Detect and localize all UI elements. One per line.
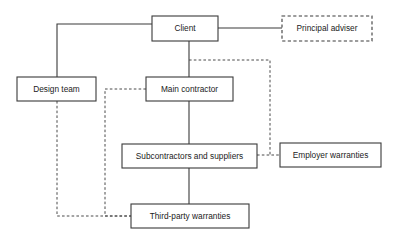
diagram-root: ClientPrincipal adviserDesign teamMain c… — [0, 0, 399, 241]
node-design-team[interactable]: Design team — [17, 77, 96, 101]
node-main-contractor[interactable]: Main contractor — [146, 77, 233, 101]
node-client[interactable]: Client — [152, 16, 218, 41]
diagram-canvas: ClientPrincipal adviserDesign teamMain c… — [0, 0, 399, 241]
node-principal-adviser[interactable]: Principal adviser — [282, 16, 372, 41]
connector-client-to-design-team — [57, 24, 152, 77]
node-label-third-party-warranties: Third-party warranties — [150, 211, 231, 221]
connector-client-to-employer-warranties — [189, 60, 270, 155]
node-subcontractors-and-suppliers[interactable]: Subcontractors and suppliers — [122, 144, 257, 168]
connector-design-team-to-third-party-warranties — [57, 101, 131, 216]
node-label-design-team: Design team — [33, 84, 80, 94]
node-label-employer-warranties: Employer warranties — [293, 150, 369, 160]
node-employer-warranties[interactable]: Employer warranties — [280, 143, 381, 167]
node-third-party-warranties[interactable]: Third-party warranties — [131, 204, 249, 228]
node-label-principal-adviser: Principal adviser — [297, 23, 358, 33]
edge-layer — [57, 24, 282, 216]
node-label-client: Client — [174, 23, 196, 33]
node-layer: ClientPrincipal adviserDesign teamMain c… — [17, 16, 381, 228]
node-label-subcontractors-and-suppliers: Subcontractors and suppliers — [136, 151, 243, 161]
node-label-main-contractor: Main contractor — [161, 84, 218, 94]
